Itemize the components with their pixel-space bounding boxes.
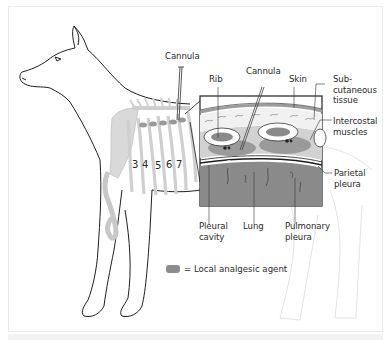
rib-number-7: 7 bbox=[176, 160, 182, 170]
label-rib: Rib bbox=[209, 74, 223, 85]
label-cannula-main: Cannula bbox=[165, 51, 200, 62]
rib-number-6: 6 bbox=[166, 160, 172, 170]
label-lung: Lung bbox=[243, 221, 264, 232]
label-pleural-cavity: Pleural cavity bbox=[199, 221, 228, 242]
cannula-main bbox=[177, 67, 184, 120]
local-analgesic-swatch bbox=[166, 265, 180, 273]
legend-text: = Local analgesic agent bbox=[184, 264, 287, 274]
rib-number-3: 3 bbox=[132, 160, 138, 170]
label-cannula-inset: Cannula bbox=[246, 66, 281, 77]
label-subcutaneous-tissue: Sub- cutaneous tissue bbox=[333, 74, 377, 106]
label-intercostal-muscles: Intercostal muscles bbox=[333, 116, 377, 137]
rib-number-4: 4 bbox=[142, 160, 148, 170]
label-parietal-pleura: Parietal pleura bbox=[334, 168, 366, 189]
label-pulmonary-pleura: Pulmonary pleura bbox=[285, 221, 330, 242]
legend: = Local analgesic agent bbox=[166, 264, 287, 274]
rib-number-5: 5 bbox=[155, 161, 161, 171]
skeleton bbox=[105, 108, 190, 238]
label-skin: Skin bbox=[289, 74, 307, 85]
cross-section-inset bbox=[200, 87, 326, 206]
